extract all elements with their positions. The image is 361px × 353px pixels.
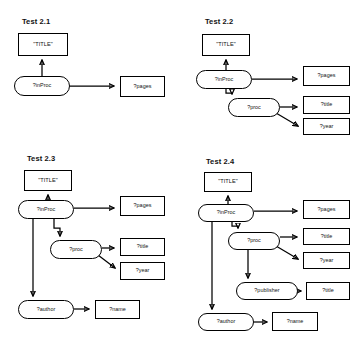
- node-inproc[interactable]: ?inProc: [14, 76, 70, 96]
- edge-proc-to-year: [276, 246, 298, 259]
- node-title-literal[interactable]: "TITLE": [204, 172, 252, 192]
- node-proc[interactable]: ?proc: [50, 240, 102, 259]
- panel-title-test-2-3: Test 2.3: [27, 155, 55, 163]
- node-name[interactable]: ?name: [272, 312, 318, 331]
- node-inproc[interactable]: ?inProc: [198, 204, 254, 222]
- node-proc[interactable]: ?proc: [228, 232, 280, 250]
- node-author[interactable]: ?author: [18, 300, 74, 319]
- node-pages[interactable]: ?pages: [303, 66, 350, 86]
- edge-proc-to-year: [98, 255, 115, 268]
- panel-title-test-2-2: Test 2.2: [205, 18, 233, 26]
- node-publisher-title[interactable]: ?title: [306, 282, 350, 300]
- node-title[interactable]: ?title: [303, 96, 350, 114]
- panel-title-test-2-4: Test 2.4: [206, 158, 234, 166]
- node-title[interactable]: ?title: [120, 238, 165, 256]
- node-proc[interactable]: ?proc: [228, 98, 280, 117]
- panel-title-test-2-1: Test 2.1: [22, 18, 50, 26]
- edge-inproc-to-proc: [54, 219, 60, 236]
- node-name[interactable]: ?name: [95, 300, 140, 319]
- node-author[interactable]: ?author: [198, 313, 254, 331]
- edge-inproc-to-proc: [226, 89, 232, 94]
- node-year[interactable]: ?year: [303, 252, 350, 269]
- node-pages[interactable]: ?pages: [120, 196, 165, 216]
- node-publisher[interactable]: ?publisher: [236, 282, 298, 300]
- node-title-literal[interactable]: "TITLE": [202, 34, 250, 56]
- node-year[interactable]: ?year: [120, 262, 165, 280]
- edge-proc-to-year: [276, 113, 298, 126]
- node-title-literal[interactable]: "TITLE": [18, 33, 68, 56]
- node-pages[interactable]: ?pages: [303, 200, 350, 219]
- node-year[interactable]: ?year: [303, 118, 350, 135]
- diagram-canvas: Test 2.1 Test 2.2 Test 2.3 Test 2.4 "TIT…: [0, 0, 361, 353]
- node-inproc[interactable]: ?inProc: [18, 200, 74, 219]
- node-pages[interactable]: ?pages: [120, 76, 165, 97]
- edge-inproc-to-proc: [232, 222, 238, 228]
- node-title[interactable]: ?title: [303, 228, 350, 245]
- node-title-literal[interactable]: "TITLE": [24, 170, 72, 191]
- node-inproc[interactable]: ?inProc: [196, 70, 252, 89]
